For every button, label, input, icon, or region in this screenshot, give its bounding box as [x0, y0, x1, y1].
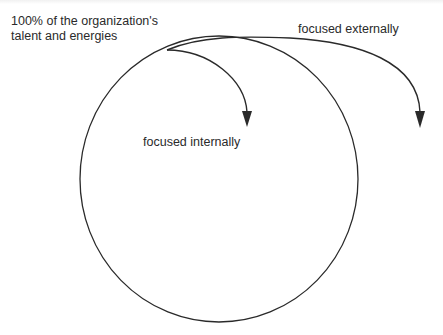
organization-circle — [80, 36, 358, 322]
external-arrowhead-icon — [415, 111, 425, 128]
focused-internally-label: focused internally — [143, 135, 240, 150]
focused-externally-label: focused externally — [298, 22, 399, 37]
whole-organization-label: 100% of the organization's talent and en… — [11, 14, 158, 44]
whole-label-line-2: talent and energies — [11, 29, 158, 44]
diagram-canvas — [0, 0, 443, 335]
internal-focus-arrow — [167, 50, 247, 112]
internal-arrowhead-icon — [242, 111, 252, 127]
external-focus-arrow — [167, 37, 420, 112]
whole-label-line-1: 100% of the organization's — [11, 14, 158, 29]
